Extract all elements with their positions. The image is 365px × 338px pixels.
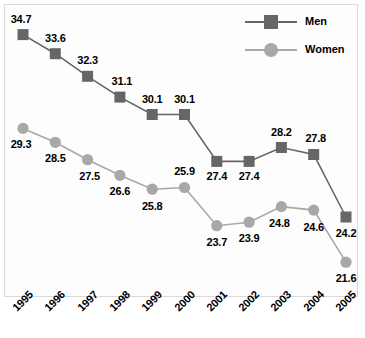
point-label-women-1995: 29.3 <box>11 139 32 150</box>
data-point-women-1995 <box>17 123 28 134</box>
point-label-men-2002: 27.4 <box>239 171 260 182</box>
data-point-men-1998 <box>114 92 125 103</box>
data-point-men-2004 <box>308 149 319 160</box>
data-point-women-2002 <box>244 217 255 228</box>
point-label-women-2002: 23.9 <box>239 233 260 244</box>
data-point-men-2003 <box>276 142 287 153</box>
data-point-men-1999 <box>147 109 158 120</box>
legend-marker-men-icon <box>243 12 299 32</box>
point-label-men-1998: 31.1 <box>112 76 133 87</box>
legend-label-men: Men <box>305 15 327 27</box>
data-point-men-2002 <box>244 156 255 167</box>
data-point-men-2000 <box>179 109 190 120</box>
legend-item-women: Women <box>243 40 353 68</box>
point-label-women-1996: 28.5 <box>45 153 66 164</box>
point-label-women-1998: 26.6 <box>110 186 131 197</box>
data-point-women-2005 <box>340 257 351 268</box>
point-label-women-2001: 23.7 <box>206 236 227 247</box>
point-label-women-1999: 25.8 <box>142 201 163 212</box>
data-point-women-2004 <box>308 205 319 216</box>
point-label-men-2005: 24.2 <box>336 228 357 239</box>
point-label-women-2005: 21.6 <box>336 273 357 284</box>
series-line-women <box>23 128 346 262</box>
data-point-women-2000 <box>179 182 190 193</box>
legend-marker-women-icon <box>243 40 299 60</box>
data-point-women-1996 <box>50 137 61 148</box>
legend-label-women: Women <box>305 43 345 55</box>
point-label-men-1995: 34.7 <box>11 13 32 24</box>
point-label-women-1997: 27.5 <box>79 170 100 181</box>
data-point-women-2003 <box>276 201 287 212</box>
chart-legend: Men Women <box>243 12 353 68</box>
data-point-women-2001 <box>211 220 222 231</box>
data-point-women-1998 <box>114 170 125 181</box>
data-point-men-2001 <box>211 156 222 167</box>
x-axis-tick-labels: 1995199619971998199920002001200220032004… <box>0 297 365 338</box>
legend-item-men: Men <box>243 12 353 40</box>
point-label-men-2003: 28.2 <box>271 126 292 137</box>
point-label-men-2000: 30.1 <box>174 93 195 104</box>
point-label-women-2000: 25.9 <box>174 166 195 177</box>
point-label-women-2003: 24.8 <box>269 217 290 228</box>
data-point-men-1997 <box>82 71 93 82</box>
line-chart: 34.733.632.331.130.130.127.427.428.227.8… <box>0 0 365 338</box>
point-label-men-1999: 30.1 <box>142 93 163 104</box>
point-label-men-2001: 27.4 <box>206 171 227 182</box>
point-label-men-1996: 33.6 <box>45 32 66 43</box>
data-point-men-2005 <box>341 212 352 223</box>
data-point-men-1995 <box>18 29 29 40</box>
data-point-women-1999 <box>147 184 158 195</box>
point-label-men-2004: 27.8 <box>305 133 326 144</box>
point-label-women-2004: 24.6 <box>303 222 324 233</box>
point-label-men-1997: 32.3 <box>77 55 98 66</box>
data-point-women-1997 <box>82 154 93 165</box>
data-point-men-1996 <box>50 48 61 59</box>
